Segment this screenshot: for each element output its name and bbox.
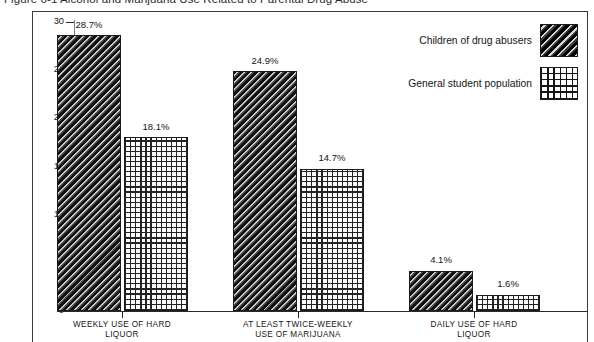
legend-label-series1: Children of drug abusers bbox=[419, 35, 532, 46]
chart-legend: Children of drug abusers General student… bbox=[392, 24, 578, 110]
x-axis-label-group3-line1: DAILY USE OF HARD bbox=[384, 320, 564, 330]
chart-plot-area: PERCENT OF STUDENTS SURVEYED 30 25 20 15… bbox=[0, 0, 594, 342]
x-axis-baseline bbox=[57, 311, 588, 312]
legend-swatch-series1 bbox=[540, 24, 578, 57]
x-tick-mark-group3 bbox=[474, 311, 475, 318]
x-axis-label-group1-line2: LIQUOR bbox=[32, 330, 212, 340]
bar-label-group2-series1: 24.9% bbox=[235, 55, 295, 66]
bar-label-group3-series2: 1.6% bbox=[478, 278, 538, 289]
legend-swatch-series2 bbox=[540, 67, 578, 100]
x-tick-mark-group2 bbox=[298, 311, 299, 318]
x-axis-label-group1: WEEKLY USE OF HARD LIQUOR bbox=[32, 320, 212, 341]
bar-group2-series1 bbox=[233, 71, 297, 311]
x-axis-label-group3-line2: LIQUOR bbox=[384, 330, 564, 340]
x-tick-mark-group1 bbox=[122, 311, 123, 318]
bar-label-group1-series1: 28.7% bbox=[59, 19, 119, 30]
bar-label-group1-series2: 18.1% bbox=[126, 121, 186, 132]
legend-label-series2: General student population bbox=[408, 78, 532, 89]
x-axis-label-group2: AT LEAST TWICE-WEEKLY USE OF MARIJUANA bbox=[208, 320, 388, 341]
bar-label-group3-series1: 4.1% bbox=[411, 254, 471, 265]
x-axis-label-group2-line2: USE OF MARIJUANA bbox=[208, 330, 388, 340]
bar-group3-series2 bbox=[476, 295, 540, 311]
x-axis-label-group1-line1: WEEKLY USE OF HARD bbox=[32, 320, 212, 330]
bar-group2-series2 bbox=[300, 169, 364, 311]
legend-item-series1: Children of drug abusers bbox=[392, 24, 578, 67]
bar-group1-series2 bbox=[124, 137, 188, 311]
x-axis-label-group2-line1: AT LEAST TWICE-WEEKLY bbox=[208, 320, 388, 330]
bar-label-group2-series2: 14.7% bbox=[302, 152, 362, 163]
bar-group3-series1 bbox=[409, 271, 473, 311]
bar-group1-series1 bbox=[57, 35, 121, 311]
legend-item-series2: General student population bbox=[392, 67, 578, 110]
x-axis-label-group3: DAILY USE OF HARD LIQUOR bbox=[384, 320, 564, 341]
